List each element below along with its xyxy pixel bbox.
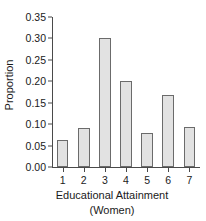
x-axis-tick-mark [189, 168, 190, 172]
y-axis-title: Proportion [0, 0, 18, 170]
x-axis-tick-label: 4 [123, 174, 129, 186]
x-axis-tick-label: 5 [144, 174, 150, 186]
y-axis-tick-label: 0.25 [26, 54, 46, 66]
y-axis-tick-label: 0.35 [26, 11, 46, 23]
x-axis-tick-label: 7 [187, 174, 193, 186]
x-axis-tick-mark [168, 168, 169, 172]
x-axis-tick-mark [84, 168, 85, 172]
y-axis-tick-label: 0.05 [26, 140, 46, 152]
bar [78, 128, 90, 167]
bar [141, 133, 153, 167]
bar [120, 81, 132, 167]
x-axis-tick-mark [126, 168, 127, 172]
x-axis-tick-label: 6 [165, 174, 171, 186]
x-axis-subtitle: (Women) [18, 204, 206, 216]
bar [184, 127, 196, 167]
x-axis-tick-label: 2 [81, 174, 87, 186]
y-axis-tick-label: 0.20 [26, 75, 46, 87]
y-axis-tick-label: 0.30 [26, 32, 46, 44]
y-axis-title-text: Proportion [3, 60, 15, 111]
x-axis-tick-mark [105, 168, 106, 172]
y-axis-line [52, 17, 53, 168]
y-axis-tick-label: 0.15 [26, 97, 46, 109]
x-axis-title: Educational Attainment [18, 189, 206, 201]
x-axis-tick-mark [147, 168, 148, 172]
x-axis-tick-label: 3 [102, 174, 108, 186]
plot-area: 1234567 [52, 17, 200, 167]
bar [162, 95, 174, 167]
y-axis-tick-label: 0.00 [26, 161, 46, 173]
x-axis-tick-label: 1 [60, 174, 66, 186]
bar-chart-figure: Proportion 0.000.050.100.150.200.250.300… [0, 0, 206, 221]
bar [57, 140, 69, 167]
y-axis-tick-label: 0.10 [26, 118, 46, 130]
y-axis-tick-labels: 0.000.050.100.150.200.250.300.35 [18, 0, 48, 175]
bar [99, 38, 111, 167]
x-axis-tick-mark [63, 168, 64, 172]
